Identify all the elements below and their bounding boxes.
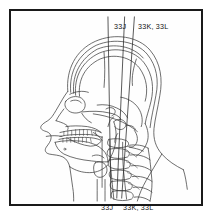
mandible-inferior-border xyxy=(55,142,108,162)
mental-foramen xyxy=(64,148,66,150)
upper-teeth-row xyxy=(60,130,101,133)
vertebra-c4 xyxy=(109,170,131,180)
larynx-outline xyxy=(94,162,107,177)
occipital-bone xyxy=(136,124,148,156)
zygomatic-body xyxy=(82,113,92,123)
shoulder-line-right xyxy=(183,170,187,190)
sella-turcica xyxy=(106,108,115,116)
label-top-33j: 33J xyxy=(114,22,126,31)
temporal-bone xyxy=(121,97,143,126)
label-bottom-33j: 33J xyxy=(101,203,113,212)
cranial-vault-inner-table xyxy=(79,56,146,101)
anatomical-line-drawing xyxy=(11,11,201,204)
upper-teeth-base xyxy=(60,134,102,137)
nasal-aperture xyxy=(56,121,68,130)
orbit-inner-detail xyxy=(71,100,82,103)
coronal-suture xyxy=(104,52,105,87)
neck-posterior-contour xyxy=(137,154,161,201)
neck-anterior-contour xyxy=(70,167,74,201)
orbit-outline xyxy=(65,97,85,113)
lower-teeth-row xyxy=(59,137,101,140)
vertebra-c3 xyxy=(108,159,130,169)
foramen-magnum-line xyxy=(130,147,144,151)
mandible-body xyxy=(55,141,108,162)
figure-frame: 33J 33K, 33L 33J 33K, 33L xyxy=(9,9,203,206)
lip-line xyxy=(46,136,62,137)
tongue-outline xyxy=(68,138,101,146)
vertebra-c5 xyxy=(110,181,132,191)
spinous-tips-connector xyxy=(148,148,152,201)
nasal-bone xyxy=(56,109,64,121)
label-top-33k-33l: 33K, 33L xyxy=(138,22,168,31)
label-bottom-33k-33l: 33K, 33L xyxy=(123,203,153,212)
